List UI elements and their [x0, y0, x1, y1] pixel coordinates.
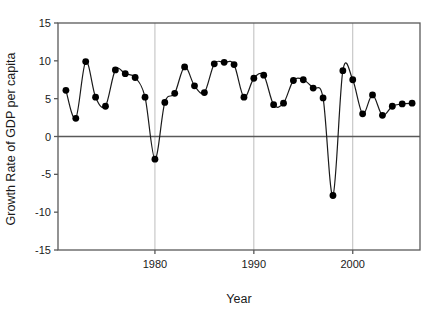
data-point: [290, 77, 297, 84]
y-tick-label: 0: [45, 131, 51, 143]
data-point: [191, 82, 198, 89]
data-point: [270, 101, 277, 108]
data-point: [250, 75, 257, 82]
data-point: [201, 89, 208, 96]
data-point: [320, 95, 327, 102]
data-point: [399, 101, 406, 108]
data-point: [152, 156, 159, 163]
data-point: [409, 100, 416, 107]
x-tick-label: 1980: [143, 258, 167, 270]
data-point: [211, 60, 218, 67]
data-point: [221, 59, 228, 66]
data-point: [142, 94, 149, 101]
data-point: [379, 112, 386, 119]
data-point: [330, 192, 337, 199]
y-tick-label: -10: [35, 206, 51, 218]
data-point: [171, 90, 178, 97]
data-point: [63, 87, 70, 94]
x-axis-ticks: 198019902000: [143, 250, 365, 270]
data-point: [92, 94, 99, 101]
data-point: [260, 72, 267, 79]
data-point: [82, 58, 89, 65]
x-tick-label: 2000: [341, 258, 365, 270]
data-point: [339, 67, 346, 74]
data-points: [63, 58, 416, 199]
data-point: [132, 74, 139, 81]
data-point: [161, 99, 168, 106]
x-tick-label: 1990: [242, 258, 266, 270]
data-point: [231, 61, 238, 68]
data-line: [66, 61, 412, 196]
chart-figure: Growth Rate of GDP per capita Year -15-1…: [0, 0, 430, 319]
data-point: [349, 76, 356, 83]
gdp-growth-line-chart: Growth Rate of GDP per capita Year -15-1…: [0, 0, 430, 319]
y-axis-title: Growth Rate of GDP per capita: [4, 53, 18, 226]
data-point: [181, 63, 188, 70]
data-point: [359, 110, 366, 117]
data-point: [241, 94, 248, 101]
data-point: [389, 103, 396, 110]
data-point: [72, 115, 79, 122]
y-tick-label: 10: [39, 55, 51, 67]
data-point: [112, 67, 119, 74]
y-tick-label: -5: [41, 168, 51, 180]
y-axis-ticks: -15-10-5051015: [35, 17, 58, 256]
y-tick-label: 15: [39, 17, 51, 29]
data-point: [369, 91, 376, 98]
y-tick-label: -15: [35, 244, 51, 256]
data-point: [300, 76, 307, 83]
x-axis-title: Year: [226, 292, 251, 306]
data-point: [280, 100, 287, 107]
y-tick-label: 5: [45, 93, 51, 105]
data-point: [310, 85, 317, 92]
data-point: [102, 103, 109, 110]
series-path: [66, 61, 412, 196]
data-point: [122, 70, 129, 77]
